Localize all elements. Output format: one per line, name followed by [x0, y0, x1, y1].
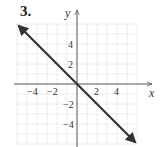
graph: x y −4 −2 2 4 4 2 −2 −4 [0, 0, 165, 147]
y-axis-label: y [64, 6, 71, 20]
y-tick: 2 [68, 59, 73, 70]
x-tick: −2 [47, 86, 58, 97]
x-axis-label: x [148, 86, 155, 100]
x-tick: −4 [27, 86, 38, 97]
x-tick: 2 [94, 86, 99, 97]
y-tick: −2 [63, 99, 74, 110]
x-tick: 4 [114, 86, 119, 97]
y-tick: 4 [68, 39, 73, 50]
y-tick: −4 [63, 119, 74, 130]
